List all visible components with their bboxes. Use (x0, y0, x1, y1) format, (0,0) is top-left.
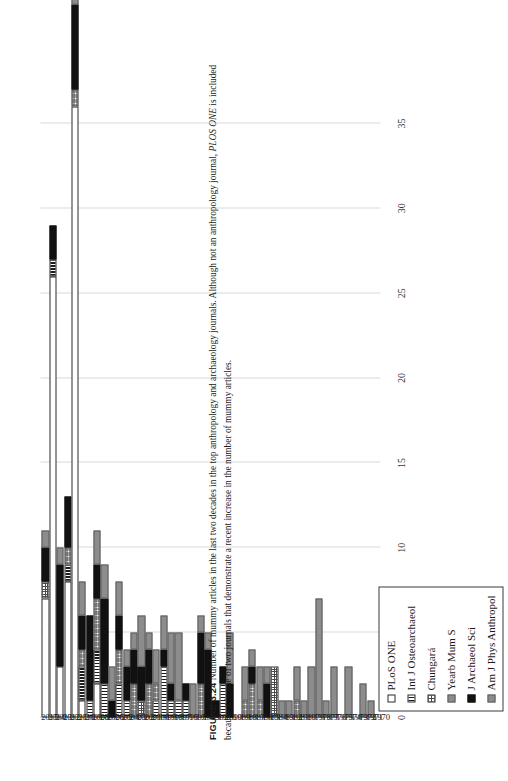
bar-segment-am-j-phys-anthropol (344, 666, 351, 717)
bar-segment-j-archaeol-sci (78, 615, 85, 649)
bar-row (337, 89, 344, 717)
bar-segment-j-archaeol-sci (145, 649, 152, 683)
stacked-bar[interactable] (145, 632, 152, 717)
legend-label: Yearb Mum S (445, 629, 456, 690)
legend-item-yearb-mum-s[interactable]: Yearb Mum S (445, 595, 456, 702)
bar-row (108, 89, 115, 717)
bar-segment-j-archaeol-sci (64, 496, 71, 547)
value-tick-label: 25 (395, 288, 406, 298)
legend-label: PLoS ONE (385, 640, 396, 690)
bar-segment-chungar- (152, 683, 159, 700)
bar-row (330, 89, 337, 717)
figure-caption-block: FIGURE 3.24 Number of mummy articles in … (206, 40, 302, 740)
bar-segment-chungar- (64, 547, 71, 564)
bar-segment-am-j-phys-anthropol (78, 581, 85, 615)
value-tick-label: 35 (395, 118, 406, 128)
bar-row (115, 89, 122, 717)
stacked-bar[interactable] (130, 632, 137, 717)
bar-segment-am-j-phys-anthropol (100, 564, 107, 598)
bar-segment-j-archaeol-sci (93, 564, 100, 598)
bar-segment-am-j-phys-anthropol (152, 649, 159, 683)
bar-segment-am-j-phys-anthropol (330, 666, 337, 717)
stacked-bar[interactable] (307, 666, 314, 717)
legend-item-int-j-osteoarchaeol[interactable]: Int J Osteoarchaeol (405, 595, 416, 702)
stacked-bar[interactable] (174, 632, 181, 717)
bar-segment-j-archaeol-sci (197, 632, 204, 683)
figure-number: FIGURE 3.24 (208, 683, 218, 740)
figure-caption: FIGURE 3.24 Number of mummy articles in … (206, 40, 236, 740)
bar-segment-j-archaeol-sci (71, 4, 78, 89)
bar-segment-am-j-phys-anthropol (167, 632, 174, 683)
bar-segment-j-archaeol-sci (49, 225, 56, 259)
stacked-bar[interactable] (315, 598, 322, 717)
stacked-bar[interactable] (197, 615, 204, 717)
bar-row (167, 89, 174, 717)
bar-row (160, 89, 167, 717)
stacked-bar[interactable] (152, 649, 159, 717)
stacked-bar[interactable] (344, 666, 351, 717)
stacked-bar[interactable] (93, 530, 100, 717)
bar-segment-chungar- (78, 649, 85, 666)
bar-segment-j-archaeol-sci (56, 564, 63, 666)
bar-segment-chungar- (71, 89, 78, 106)
bar-row (182, 89, 189, 717)
stacked-bar[interactable] (71, 0, 78, 717)
stacked-bar[interactable] (330, 666, 337, 717)
legend-item-am-j-phys-anthropol[interactable]: Am J Phys Anthropol (485, 595, 496, 702)
bar-segment-plos-one (56, 666, 63, 717)
legend-label: Chungará (425, 647, 436, 690)
stacked-bar[interactable] (49, 225, 56, 717)
stacked-bar[interactable] (78, 581, 85, 717)
legend-item-chungar-[interactable]: Chungará (425, 595, 436, 702)
bar-segment-am-j-phys-anthropol (174, 632, 181, 700)
bar-row (352, 89, 359, 717)
bar-segment-chungar- (115, 649, 122, 683)
bar-segment-int-j-osteoarchaeol (160, 666, 167, 717)
chart-legend: PLoS ONEInt J OsteoarchaeolChungaráYearb… (378, 586, 503, 711)
stacked-bar[interactable] (56, 547, 63, 717)
bar-row (49, 89, 56, 717)
bar-row (315, 89, 322, 717)
bar-segment-j-archaeol-sci (130, 649, 137, 683)
stacked-bar[interactable] (100, 564, 107, 717)
bar-row (152, 89, 159, 717)
stacked-bar[interactable] (108, 666, 115, 717)
stacked-bar[interactable] (160, 615, 167, 717)
legend-item-j-archaeol-sci[interactable]: J Archaeol Sci (465, 595, 476, 702)
value-tick-label: 10 (395, 542, 406, 552)
bar-segment-j-archaeol-sci (137, 666, 144, 700)
stacked-bar[interactable] (115, 581, 122, 717)
stacked-bar[interactable] (64, 496, 71, 717)
bar-segment-plos-one (71, 106, 78, 717)
bar-segment-am-j-phys-anthropol (145, 632, 152, 649)
bar-row (93, 89, 100, 717)
stacked-bar[interactable] (137, 615, 144, 717)
bar-segment-int-j-osteoarchaeol (64, 564, 71, 581)
legend-swatch-vertical-stripe (407, 694, 415, 702)
bar-row (123, 89, 130, 717)
bar-segment-am-j-phys-anthropol (71, 0, 78, 4)
bar-row (367, 89, 374, 717)
bar-segment-j-archaeol-sci (182, 683, 189, 700)
bar-row (197, 89, 204, 717)
bar-segment-int-j-osteoarchaeol (78, 666, 85, 700)
bar-segment-am-j-phys-anthropol (41, 530, 48, 547)
stacked-bar[interactable] (167, 632, 174, 717)
value-tick-label: 30 (395, 203, 406, 213)
bar-segment-am-j-phys-anthropol (115, 581, 122, 615)
legend-item-plos-one[interactable]: PLoS ONE (385, 595, 396, 702)
stacked-bar[interactable] (86, 615, 93, 717)
bar-row (145, 89, 152, 717)
stacked-bar[interactable] (123, 649, 130, 717)
bar-segment-j-archaeol-sci (167, 683, 174, 700)
bar-segment-am-j-phys-anthropol (108, 666, 115, 700)
bar-segment-am-j-phys-anthropol (137, 615, 144, 666)
stacked-bar[interactable] (41, 530, 48, 717)
bar-row (359, 89, 366, 717)
value-tick-label: 15 (395, 457, 406, 467)
bar-segment-am-j-phys-anthropol (160, 615, 167, 649)
legend-swatch-gray-solid (447, 694, 455, 702)
bar-segment-j-archaeol-sci (100, 598, 107, 683)
caption-journal-name: PLOS ONE (208, 108, 218, 152)
bar-segment-j-archaeol-sci (123, 666, 130, 700)
